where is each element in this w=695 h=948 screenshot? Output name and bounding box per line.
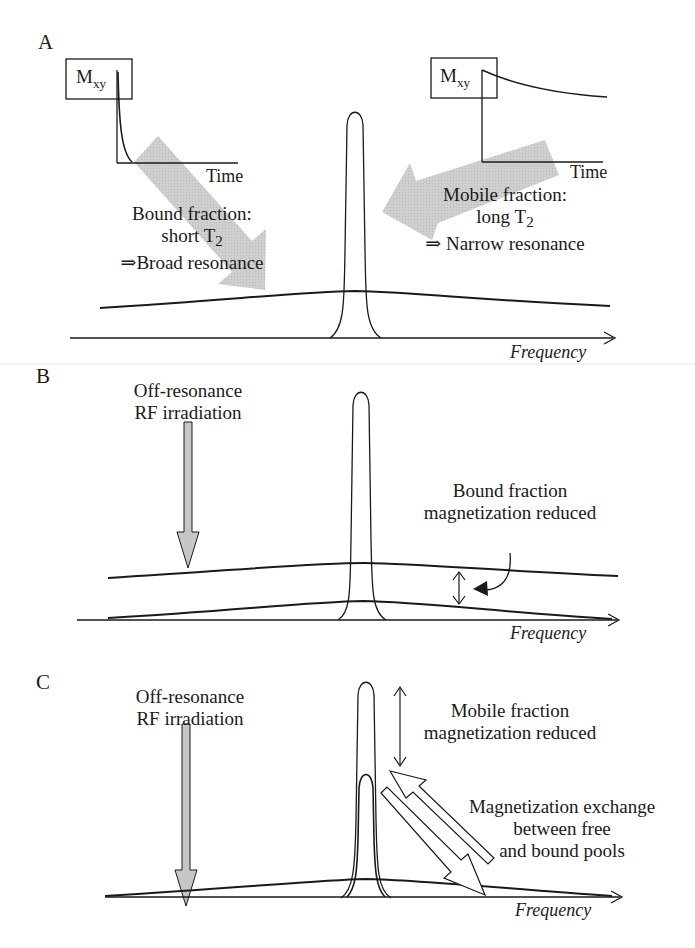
mobile-line1: Mobile fraction: xyxy=(405,184,605,206)
bound-line1: Bound fraction: xyxy=(102,203,282,225)
bound-line2-text: short T xyxy=(161,225,215,246)
rf-line2: RF irradiation xyxy=(108,402,268,424)
mobile-reduced-line2: magnetization reduced xyxy=(410,722,610,744)
mxy-m: M xyxy=(440,65,457,86)
exchange-line2: between free xyxy=(452,818,672,840)
exchange-text: Magnetization exchange between free and … xyxy=(452,796,672,862)
mxy-m: M xyxy=(76,66,93,87)
bound-reduced-text: Bound fraction magnetization reduced xyxy=(410,480,610,524)
curved-pointer-arrow xyxy=(486,553,510,590)
rf-line1: Off-resonance xyxy=(108,380,268,402)
rf-irradiation-text-c: Off-resonance RF irradiation xyxy=(110,686,270,730)
exchange-line3: and bound pools xyxy=(452,840,672,862)
narrow-peak-a xyxy=(330,112,381,338)
narrow-peak-b xyxy=(338,392,386,620)
panel-letter-c: C xyxy=(36,670,50,695)
frequency-label-b: Frequency xyxy=(510,623,586,644)
mobile-fraction-text: Mobile fraction: long T2 ⇒ Narrow resona… xyxy=(405,184,605,255)
bound-line2: short T2 xyxy=(102,225,282,252)
rf-line2: RF irradiation xyxy=(110,708,270,730)
bound-fraction-text: Bound fraction: short T2 ⇒Broad resonanc… xyxy=(102,203,282,274)
frequency-label-a: Frequency xyxy=(510,342,586,363)
broad-resonance-a xyxy=(100,291,610,308)
right-mxy-label: Mxy xyxy=(440,65,470,91)
bound-reduced-line2: magnetization reduced xyxy=(410,502,610,524)
rf-irradiation-arrow-b xyxy=(177,422,199,568)
left-mxy-label: Mxy xyxy=(76,66,106,92)
broad-resonance-original-b xyxy=(108,563,618,578)
exchange-line1: Magnetization exchange xyxy=(452,796,672,818)
rf-irradiation-text-b: Off-resonance RF irradiation xyxy=(108,380,268,424)
mobile-line2-text: long T xyxy=(476,206,526,227)
bound-reduced-line1: Bound fraction xyxy=(410,480,610,502)
slow-decay-curve xyxy=(482,70,607,97)
fast-decay-curve xyxy=(118,72,132,162)
mobile-reduced-line1: Mobile fraction xyxy=(410,700,610,722)
mobile-line3: ⇒ Narrow resonance xyxy=(405,233,605,255)
mobile-reduced-text: Mobile fraction magnetization reduced xyxy=(410,700,610,744)
mxy-sub: xy xyxy=(457,75,470,90)
left-time-label: Time xyxy=(206,166,243,187)
right-time-label: Time xyxy=(570,162,607,183)
rf-line1: Off-resonance xyxy=(110,686,270,708)
mobile-line2: long T2 xyxy=(405,206,605,233)
bound-line3: ⇒Broad resonance xyxy=(102,252,282,274)
rf-irradiation-arrow-c xyxy=(175,724,197,906)
panel-letter-a: A xyxy=(38,30,53,55)
panel-letter-b: B xyxy=(36,364,50,389)
bound-line2-sub: 2 xyxy=(215,233,223,249)
mobile-line2-sub: 2 xyxy=(526,214,534,230)
frequency-label-c: Frequency xyxy=(515,900,591,921)
mxy-sub: xy xyxy=(93,76,106,91)
broad-resonance-reduced-b xyxy=(108,601,612,619)
